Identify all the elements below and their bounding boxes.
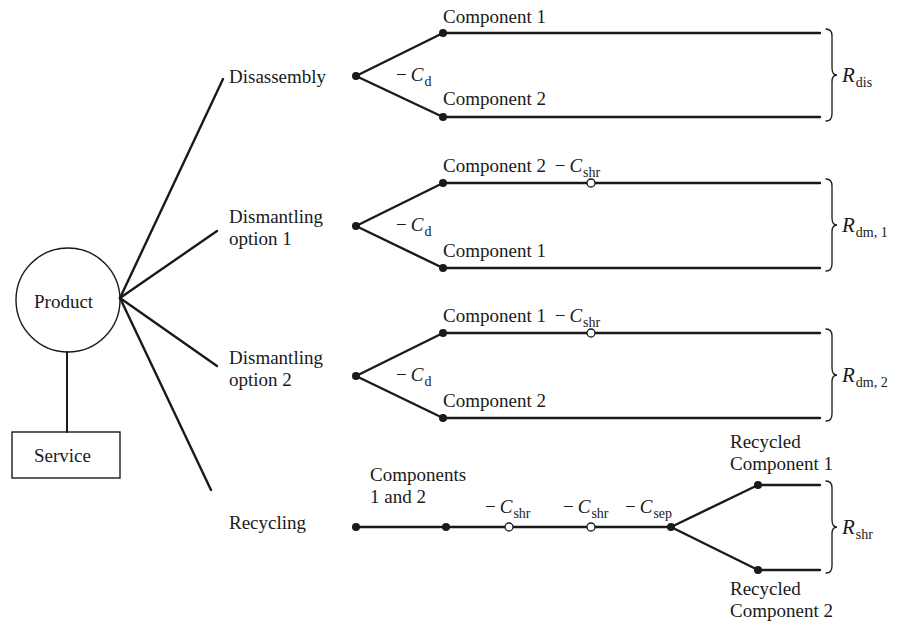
revenue-symbol: R [842, 515, 855, 539]
revenue-subscript: dm, 1 [856, 225, 888, 240]
recycling-edge-bottom [671, 527, 758, 570]
minus-sign: − [563, 496, 574, 517]
label-line: Recycled [730, 431, 801, 452]
cost-symbol: C [411, 364, 424, 385]
dismantling1-cost: −Cd [396, 214, 431, 238]
cost-subscript: shr [513, 506, 530, 521]
disassembly-cost: −Cd [396, 64, 431, 88]
dismantling1-top-label: Component 2 −Cshr [443, 155, 600, 179]
revenue-dismantling-1: Rdm, 1 [842, 214, 888, 239]
branch-label-disassembly: Disassembly [229, 66, 326, 88]
dismantling2-top-label: Component 1 −Cshr [443, 305, 600, 329]
branch-label-line: option 1 [229, 228, 292, 249]
brace-disassembly [826, 29, 837, 121]
brace-dismantling-1 [826, 179, 837, 271]
disassembly-bottom-label: Component 2 [443, 88, 546, 110]
revenue-subscript: dm, 2 [856, 375, 888, 390]
revenue-disassembly: Rdis [842, 64, 872, 89]
recycling-cost-shred-2: −Cshr [563, 496, 609, 520]
recycling-cost-separation: −Csep [625, 496, 672, 520]
dismantling1-bottom-label: Component 1 [443, 240, 546, 262]
minus-sign: − [396, 364, 407, 385]
edge-to-dismantling-2 [120, 298, 217, 366]
dismantling2-bottom-label: Component 2 [443, 390, 546, 412]
recycled2-node [754, 566, 762, 574]
revenue-subscript: dis [856, 75, 872, 90]
revenue-symbol: R [842, 63, 855, 87]
edge-to-disassembly [120, 79, 223, 298]
minus-sign: − [555, 305, 566, 326]
product-label: Product [34, 291, 93, 313]
brace-recycling [826, 481, 837, 573]
recycled1-node [754, 481, 762, 489]
dismantling1-shred-node [587, 179, 595, 187]
component-label: Component 1 [443, 305, 546, 326]
brace-dismantling-2 [826, 329, 837, 421]
branch-label-line: option 2 [229, 369, 292, 390]
cost-subscript: shr [591, 506, 608, 521]
revenue-symbol: R [842, 213, 855, 237]
cost-symbol: C [578, 496, 591, 517]
recycling-cost-shred-1: −Cshr [485, 496, 531, 520]
label-line: Recycled [730, 578, 801, 599]
component-label: Component 2 [443, 155, 546, 176]
disassembly-node [352, 72, 360, 80]
minus-sign: − [396, 64, 407, 85]
branch-label-line: Dismantling [229, 347, 323, 368]
recycling-input-label: Components1 and 2 [370, 464, 466, 508]
cost-subscript: d [424, 74, 431, 89]
recycling-shred-node-1 [505, 523, 513, 531]
dismantling2-bottom-node [439, 414, 447, 422]
cost-symbol: C [569, 155, 582, 176]
dismantling2-node [352, 372, 360, 380]
revenue-subscript: shr [856, 527, 873, 542]
revenue-symbol: R [842, 363, 855, 387]
recycled-component-2-label: RecycledComponent 2 [730, 578, 833, 622]
cost-symbol: C [411, 64, 424, 85]
dismantling2-cost: −Cd [396, 364, 431, 388]
cost-symbol: C [411, 214, 424, 235]
dismantling2-top-node [439, 329, 447, 337]
branch-label-line: Dismantling [229, 206, 323, 227]
recycling-shred-node-2 [587, 523, 595, 531]
input-label-line: 1 and 2 [370, 486, 426, 507]
revenue-dismantling-2: Rdm, 2 [842, 364, 888, 389]
minus-sign: − [625, 496, 636, 517]
cost-subscript: shr [583, 165, 600, 180]
cost-subscript: d [424, 224, 431, 239]
recycling-edge-top [671, 485, 758, 527]
dismantling1-top-node [439, 179, 447, 187]
recycled-component-1-label: RecycledComponent 1 [730, 431, 833, 475]
disassembly-top-label: Component 1 [443, 6, 546, 28]
input-label-line: Components [370, 464, 466, 485]
minus-sign: − [555, 155, 566, 176]
dismantling1-bottom-node [439, 264, 447, 272]
recycling-separation-node [667, 523, 675, 531]
minus-sign: − [485, 496, 496, 517]
service-label: Service [34, 445, 91, 467]
dismantling1-node [352, 222, 360, 230]
branch-label-dismantling-2: Dismantlingoption 2 [229, 347, 323, 391]
disassembly-comp2-node [439, 113, 447, 121]
cost-symbol: C [640, 496, 653, 517]
cost-subscript: d [424, 374, 431, 389]
revenue-recycling: Rshr [842, 516, 873, 541]
cost-subscript: sep [653, 506, 672, 521]
cost-symbol: C [569, 305, 582, 326]
branch-label-dismantling-1: Dismantlingoption 1 [229, 206, 323, 250]
cost-subscript: shr [583, 315, 600, 330]
cost-symbol: C [500, 496, 513, 517]
minus-sign: − [396, 214, 407, 235]
label-line: Component 1 [730, 453, 833, 474]
recycling-node [352, 523, 360, 531]
label-line: Component 2 [730, 600, 833, 621]
branch-label-recycling: Recycling [229, 512, 306, 534]
disassembly-comp1-node [439, 29, 447, 37]
recycling-components-node [442, 523, 450, 531]
dismantling2-shred-node [587, 329, 595, 337]
edge-to-recycling [120, 298, 211, 490]
